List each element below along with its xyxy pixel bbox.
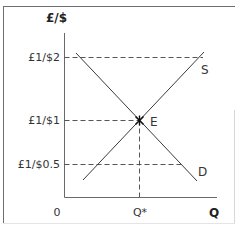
supply-curve <box>83 52 204 180</box>
equilibrium-label: E <box>150 115 158 129</box>
price-high-label: £1/$2 <box>28 51 60 64</box>
q-star-label: Q* <box>133 206 148 219</box>
supply-label: S <box>201 63 209 77</box>
demand-label: D <box>198 165 207 179</box>
exchange-rate-diagram: £/$ £1/$2 £1/$1 £1/$0.5 0 Q* Q S D E <box>0 0 237 226</box>
price-low-label: £1/$0.5 <box>18 158 60 171</box>
price-mid-label: £1/$1 <box>28 114 60 127</box>
origin-label: 0 <box>54 206 61 219</box>
x-axis-title: Q <box>209 206 219 220</box>
y-axis-title: £/$ <box>46 11 67 25</box>
